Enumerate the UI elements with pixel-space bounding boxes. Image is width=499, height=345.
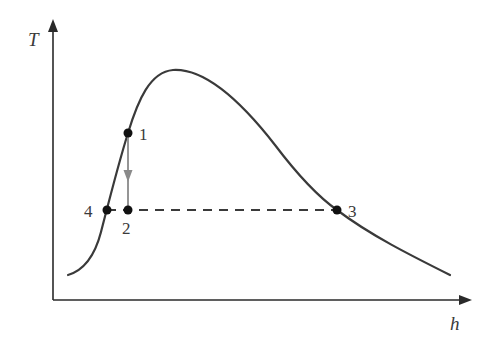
point-4 <box>103 206 112 215</box>
y-axis-label: T <box>28 30 39 49</box>
y-axis-arrow-icon <box>48 19 58 32</box>
x-axis <box>53 295 472 305</box>
point-4-label: 4 <box>84 203 93 220</box>
point-3-label: 3 <box>348 203 357 220</box>
down-arrow-icon <box>124 170 133 182</box>
y-axis <box>48 19 58 300</box>
point-1 <box>124 129 133 138</box>
x-axis-label: h <box>450 314 460 333</box>
point-2 <box>124 206 133 215</box>
diagram-canvas <box>0 0 499 345</box>
point-1-label: 1 <box>139 126 148 143</box>
point-3 <box>333 206 342 215</box>
point-2-label: 2 <box>122 220 131 237</box>
x-axis-arrow-icon <box>459 295 472 305</box>
